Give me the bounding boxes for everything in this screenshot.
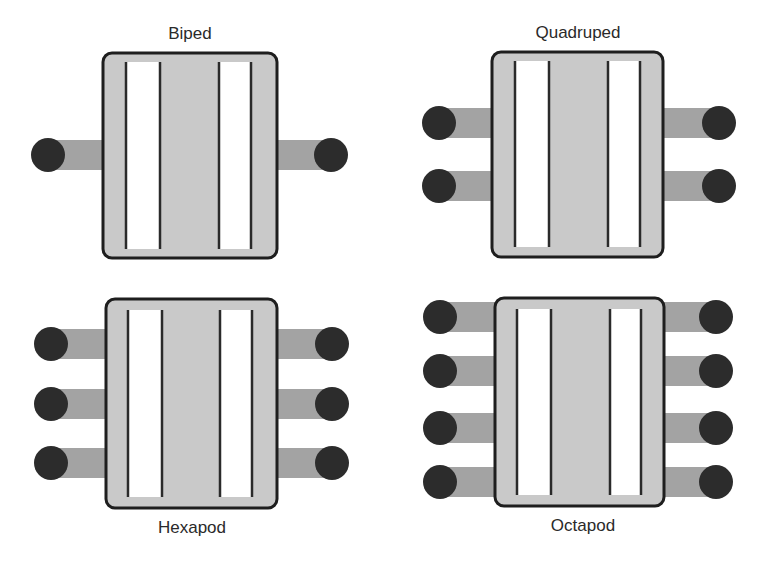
foot-left-3 bbox=[423, 411, 457, 445]
foot-right-3 bbox=[699, 411, 733, 445]
track-strip-2 bbox=[608, 61, 640, 247]
track-strip-1 bbox=[515, 61, 549, 247]
foot-left-1 bbox=[31, 138, 65, 172]
track-strip-2 bbox=[219, 62, 251, 249]
locomotion-diagram: Biped Quadruped Hexapod Octapod bbox=[0, 0, 770, 569]
label-hexapod: Hexapod bbox=[158, 518, 226, 537]
foot-left-4 bbox=[423, 465, 457, 499]
foot-left-3 bbox=[34, 446, 68, 480]
foot-left-2 bbox=[423, 354, 457, 388]
robot-hexapod bbox=[34, 299, 349, 508]
robot-quadruped bbox=[422, 52, 736, 257]
foot-right-4 bbox=[699, 465, 733, 499]
foot-right-1 bbox=[699, 300, 733, 334]
label-octapod: Octapod bbox=[551, 516, 615, 535]
robot-biped bbox=[31, 53, 348, 258]
robot-octapod bbox=[423, 298, 733, 506]
foot-left-1 bbox=[34, 327, 68, 361]
foot-left-2 bbox=[422, 169, 456, 203]
track-strip-2 bbox=[610, 309, 641, 495]
track-strip-1 bbox=[517, 309, 551, 495]
foot-left-1 bbox=[423, 300, 457, 334]
track-strip-1 bbox=[126, 62, 160, 249]
foot-left-2 bbox=[34, 387, 68, 421]
label-quadruped: Quadruped bbox=[535, 23, 620, 42]
foot-right-2 bbox=[699, 354, 733, 388]
track-strip-1 bbox=[128, 310, 162, 497]
label-biped: Biped bbox=[168, 24, 211, 43]
track-strip-2 bbox=[220, 310, 252, 497]
foot-right-2 bbox=[702, 169, 736, 203]
foot-right-1 bbox=[702, 106, 736, 140]
foot-right-1 bbox=[315, 327, 349, 361]
foot-right-1 bbox=[314, 138, 348, 172]
foot-left-1 bbox=[422, 106, 456, 140]
foot-right-3 bbox=[315, 446, 349, 480]
foot-right-2 bbox=[315, 387, 349, 421]
